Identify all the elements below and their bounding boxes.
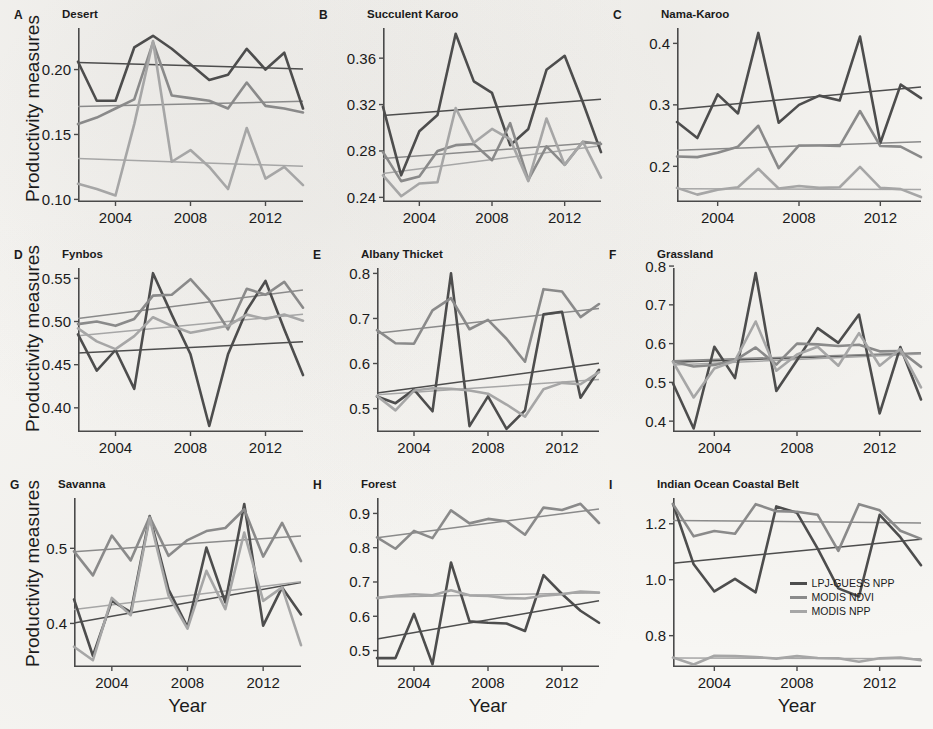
- y-tick-label: 0.8: [349, 539, 370, 556]
- y-tick-label: 0.4: [649, 35, 670, 52]
- y-tick-label: 0.40: [42, 399, 71, 416]
- y-tick-label: 0.45: [42, 356, 71, 373]
- x-tick-label: 2004: [403, 209, 436, 226]
- y-tick-label: 0.7: [645, 296, 666, 313]
- x-tick-label: 2012: [545, 674, 578, 691]
- legend-swatch-icon: [790, 610, 807, 613]
- y-axis-label: Productivity measures: [22, 28, 44, 202]
- plot-area-b: 0.240.280.320.36200420082012: [383, 28, 601, 202]
- x-tick-label: 2012: [249, 439, 282, 456]
- y-tick-label: 0.10: [42, 191, 71, 208]
- x-axis-label: Year: [74, 695, 301, 717]
- panel-letter-f: F: [609, 248, 617, 262]
- panel-a-desert: ADesert0.100.150.20200420082012Productiv…: [0, 0, 311, 240]
- x-tick-label: 2012: [545, 439, 578, 456]
- plot-area-a: 0.100.150.20200420082012: [78, 28, 303, 202]
- y-tick-label: 0.6: [349, 608, 370, 625]
- x-axis-label: Year: [673, 695, 921, 717]
- panel-letter-h: H: [313, 478, 322, 492]
- panel-title-h: Forest: [361, 478, 396, 490]
- panel-title-g: Savanna: [58, 478, 105, 490]
- x-axis-label: Year: [377, 695, 599, 717]
- figure-panel-grid: ADesert0.100.150.20200420082012Productiv…: [0, 0, 933, 729]
- plot-area-e: 0.50.60.70.8200420082012: [377, 268, 599, 432]
- x-tick-label: 2012: [249, 209, 282, 226]
- trend-line-lpj-guess-npp: [673, 539, 921, 563]
- x-tick-label: 2004: [95, 674, 128, 691]
- x-tick-label: 2004: [698, 674, 731, 691]
- series-line-modis-ndvi: [677, 111, 921, 168]
- series-line-lpj-guess-npp: [677, 33, 921, 143]
- x-tick-label: 2008: [171, 674, 204, 691]
- series-line-lpj-guess-npp: [74, 504, 301, 656]
- panel-letter-i: I: [609, 478, 613, 492]
- panel-e-albany-thicket: EAlbany Thicket0.50.60.70.8200420082012: [311, 240, 611, 470]
- legend-label: MODIS NPP: [812, 605, 871, 617]
- panel-f-grassland: FGrassland0.40.50.60.70.8200420082012: [611, 240, 933, 470]
- panel-title-a: Desert: [62, 8, 98, 20]
- panel-letter-g: G: [10, 478, 20, 492]
- y-tick-label: 0.50: [42, 313, 71, 330]
- y-tick-label: 0.28: [347, 142, 376, 159]
- x-tick-label: 2004: [397, 674, 430, 691]
- x-tick-label: 2012: [863, 439, 896, 456]
- y-tick-label: 0.5: [349, 642, 370, 659]
- series-line-modis-ndvi: [673, 504, 921, 551]
- panel-letter-c: C: [613, 8, 622, 22]
- y-tick-label: 0.4: [46, 615, 67, 632]
- x-tick-label: 2008: [471, 674, 504, 691]
- series-line-lpj-guess-npp: [78, 273, 303, 426]
- x-tick-label: 2004: [397, 439, 430, 456]
- panel-i-indian-ocean-coastal-belt: IIndian Ocean Coastal Belt0.81.01.220042…: [611, 470, 933, 729]
- x-tick-label: 2012: [863, 674, 896, 691]
- y-tick-label: 0.55: [42, 270, 71, 287]
- y-tick-label: 0.6: [349, 355, 370, 372]
- plot-area-h: 0.50.60.70.80.9200420082012: [377, 498, 599, 667]
- legend-swatch-icon: [790, 582, 807, 585]
- plot-area-d: 0.400.450.500.55200420082012: [78, 268, 303, 432]
- panel-title-d: Fynbos: [62, 248, 103, 260]
- x-tick-label: 2012: [246, 674, 279, 691]
- panel-d-fynbos: DFynbos0.400.450.500.55200420082012Produ…: [0, 240, 311, 470]
- series-line-lpj-guess-npp: [383, 34, 601, 176]
- x-tick-label: 2004: [99, 439, 132, 456]
- x-tick-label: 2008: [780, 439, 813, 456]
- y-tick-label: 0.2: [649, 158, 670, 175]
- legend-item: LPJ-GUESS NPP: [790, 577, 895, 589]
- x-tick-label: 2004: [99, 209, 132, 226]
- y-tick-label: 0.3: [649, 96, 670, 113]
- series-line-modis-npp: [673, 656, 921, 665]
- plot-area-f: 0.40.50.60.70.8200420082012: [673, 268, 921, 432]
- series-line-modis-ndvi: [383, 123, 601, 181]
- x-tick-label: 2012: [548, 209, 581, 226]
- panel-title-b: Succulent Karoo: [367, 8, 458, 20]
- y-tick-label: 0.5: [349, 400, 370, 417]
- trend-line-modis-npp: [78, 159, 303, 167]
- y-tick-label: 0.24: [347, 189, 376, 206]
- trend-line-lpj-guess-npp: [383, 99, 601, 115]
- panel-title-i: Indian Ocean Coastal Belt: [657, 478, 799, 490]
- legend-label: MODIS NDVI: [812, 591, 874, 603]
- panel-letter-e: E: [313, 248, 321, 262]
- series-line-modis-ndvi: [74, 509, 301, 575]
- plot-area-c: 0.20.30.4200420082012: [677, 28, 921, 202]
- y-tick-label: 0.20: [42, 61, 71, 78]
- panel-c-nama-karoo: CNama-Karoo0.20.30.4200420082012: [611, 0, 933, 240]
- trend-line-lpj-guess-npp: [377, 363, 599, 393]
- plot-area-g: 0.40.5200420082012: [74, 498, 301, 667]
- y-axis-label: Productivity measures: [22, 498, 44, 667]
- y-tick-label: 0.5: [645, 374, 666, 391]
- y-tick-label: 0.8: [349, 265, 370, 282]
- x-tick-label: 2008: [780, 674, 813, 691]
- series-line-modis-ndvi: [78, 42, 303, 124]
- panel-b-succulent-karoo: BSucculent Karoo0.240.280.320.3620042008…: [311, 0, 611, 240]
- series-line-modis-ndvi: [377, 504, 599, 549]
- y-tick-label: 0.36: [347, 50, 376, 67]
- y-tick-label: 1.2: [645, 515, 666, 532]
- panel-g-savanna: GSavanna0.40.5200420082012Productivity m…: [0, 470, 311, 729]
- legend-swatch-icon: [790, 596, 807, 599]
- trend-line-modis-npp: [74, 582, 301, 610]
- panel-title-c: Nama-Karoo: [661, 8, 729, 20]
- series-line-modis-npp: [383, 108, 601, 196]
- panel-h-forest: HForest0.50.60.70.80.9200420082012Year: [311, 470, 611, 729]
